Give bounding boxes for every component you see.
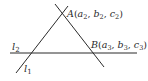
label-l1: l1 xyxy=(24,63,32,76)
geometry-diagram: l2 l1 A(a2, b2, c2) B(a3, b3, c3) xyxy=(0,0,148,81)
label-l2: l2 xyxy=(12,41,20,54)
label-point-b: B(a3, b3, c3) xyxy=(90,39,147,52)
label-point-a: A(a2, b2, c2) xyxy=(66,8,123,21)
